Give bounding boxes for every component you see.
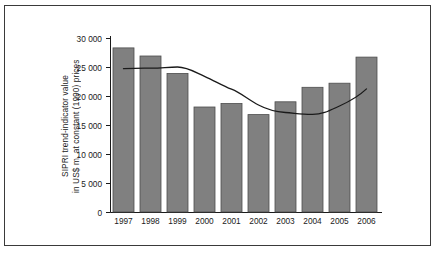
bar-2003 xyxy=(275,102,296,212)
y-tick-label-0: 0 xyxy=(58,208,102,218)
bar-2006 xyxy=(356,57,377,212)
y-tick-label-5000: 5 000 xyxy=(58,179,102,189)
bar-1998 xyxy=(140,56,161,212)
x-tick-label-1998: 1998 xyxy=(136,216,166,226)
y-tick-label-20000: 20 000 xyxy=(58,92,102,102)
x-tick-label-2002: 2002 xyxy=(244,216,274,226)
x-tick-label-1999: 1999 xyxy=(163,216,193,226)
y-tick-label-10000: 10 000 xyxy=(58,150,102,160)
x-tick-label-2000: 2000 xyxy=(190,216,220,226)
bar-2004 xyxy=(302,87,323,212)
x-tick-label-2001: 2001 xyxy=(217,216,247,226)
bar-2000 xyxy=(194,107,215,212)
x-tick-label-2004: 2004 xyxy=(298,216,328,226)
x-tick-label-2003: 2003 xyxy=(271,216,301,226)
bar-1997 xyxy=(113,48,134,212)
x-tick-label-1997: 1997 xyxy=(109,216,139,226)
bar-1999 xyxy=(167,73,188,212)
x-tick-label-2006: 2006 xyxy=(352,216,382,226)
bar-series xyxy=(113,48,377,212)
x-tick-label-2005: 2005 xyxy=(325,216,355,226)
y-tick-marks xyxy=(106,39,111,213)
bar-2002 xyxy=(248,115,269,212)
y-tick-label-15000: 15 000 xyxy=(58,121,102,131)
y-tick-label-25000: 25 000 xyxy=(58,63,102,73)
bar-2001 xyxy=(221,104,242,213)
y-tick-label-30000: 30 000 xyxy=(58,34,102,44)
